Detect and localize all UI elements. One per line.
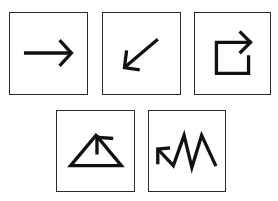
tile-5 xyxy=(148,110,226,192)
tile-1 xyxy=(9,12,88,95)
tile-4 xyxy=(56,110,135,192)
arrow-down-left-icon xyxy=(103,13,180,94)
square-with-right-arrow-icon xyxy=(195,13,270,94)
arrow-right-icon xyxy=(10,13,87,94)
tile-3 xyxy=(194,12,271,95)
tile-2 xyxy=(102,12,181,95)
zigzag-with-up-left-arrow-icon xyxy=(149,111,225,191)
triangle-with-up-left-arrow-icon xyxy=(57,111,134,191)
